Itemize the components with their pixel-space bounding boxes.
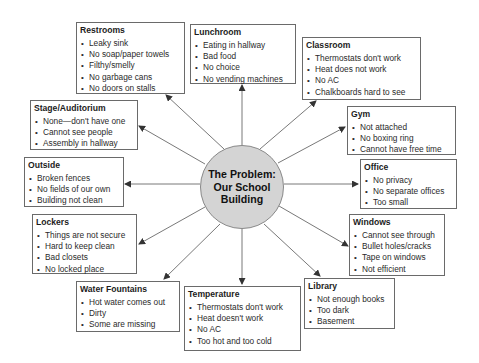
list-item: Basement xyxy=(308,316,391,327)
list-item: None—don't have one xyxy=(34,116,134,127)
arrow-stage-auditorium xyxy=(139,126,205,164)
category-title: Temperature xyxy=(188,289,297,300)
list-item: Cannot see through xyxy=(353,230,441,241)
list-item: Hard to keep clean xyxy=(36,241,133,252)
list-item: No choice xyxy=(194,62,292,73)
list-item: Not attached xyxy=(351,122,452,133)
list-item: No locked place xyxy=(36,264,133,275)
list-item: Some are missing xyxy=(80,319,176,330)
list-item: No soap/paper towels xyxy=(80,49,181,60)
list-item: Bad food xyxy=(194,51,292,62)
list-item: Cannot have free time xyxy=(351,144,452,155)
category-title: Windows xyxy=(353,217,441,228)
category-box-office: Office No privacy No separate offices To… xyxy=(360,159,457,209)
category-title: Restrooms xyxy=(80,25,181,36)
category-title: Gym xyxy=(351,109,452,120)
arrow-lockers xyxy=(139,207,205,244)
list-item: Too hot and too cold xyxy=(188,336,297,347)
list-item: No doors on stalls xyxy=(80,83,181,94)
category-title: Library xyxy=(308,281,391,292)
list-item: Broken fences xyxy=(28,173,120,184)
list-item: Bullet holes/cracks xyxy=(353,241,441,252)
list-item: No fields of our own xyxy=(28,184,120,195)
category-box-classroom: Classroom Thermostats don't work Heat do… xyxy=(302,37,421,100)
arrow-restrooms xyxy=(166,95,224,149)
category-box-temperature: Temperature Thermostats don't work Heat … xyxy=(184,286,301,351)
list-item: Tape on windows xyxy=(353,252,441,263)
category-box-water-fountains: Water Fountains Hot water comes out Dirt… xyxy=(76,281,180,332)
list-item: No privacy xyxy=(364,175,453,186)
arrow-classroom xyxy=(260,101,316,149)
category-title: Outside xyxy=(28,160,120,171)
central-topic-circle: The Problem:Our SchoolBuilding xyxy=(200,145,284,229)
list-item: No garbage cans xyxy=(80,72,181,83)
list-item: Assembly in hallway xyxy=(34,138,134,149)
arrow-windows xyxy=(279,206,348,246)
list-item: Too dark xyxy=(308,305,391,316)
list-item: Thermostats don't work xyxy=(188,302,297,313)
arrow-library xyxy=(264,224,320,276)
list-item: No vending machines xyxy=(194,74,292,85)
list-item: Dirty xyxy=(80,308,176,319)
list-item: No separate offices xyxy=(364,186,453,197)
list-item: Building not clean xyxy=(28,195,120,206)
category-box-windows: Windows Cannot see through Bullet holes/… xyxy=(349,214,445,276)
category-box-outside: Outside Broken fences No fields of our o… xyxy=(24,157,124,207)
list-item: Heat doesn't work xyxy=(188,313,297,324)
category-title: Stage/Auditorium xyxy=(34,103,134,114)
category-box-lunchroom: Lunchroom Eating in hallway Bad food No … xyxy=(190,24,296,84)
list-item: Eating in hallway xyxy=(194,40,292,51)
category-title: Lunchroom xyxy=(194,27,292,38)
category-box-restrooms: Restrooms Leaky sink No soap/paper towel… xyxy=(76,22,185,94)
list-item: Leaky sink xyxy=(80,38,181,49)
arrow-gym xyxy=(278,127,345,163)
category-box-stage-auditorium: Stage/Auditorium None—don't have one Can… xyxy=(30,100,138,150)
list-item: No AC xyxy=(188,324,297,335)
category-box-lockers: Lockers Things are not secure Hard to ke… xyxy=(32,214,137,274)
category-title: Office xyxy=(364,162,453,173)
list-item: Heat does not work xyxy=(306,64,417,75)
category-box-library: Library Not enough books Too dark Baseme… xyxy=(304,278,395,329)
list-item: Cannot see people xyxy=(34,127,134,138)
category-title: Lockers xyxy=(36,217,133,228)
list-item: Chalkboards hard to see xyxy=(306,87,417,98)
list-item: Bad closets xyxy=(36,252,133,263)
list-item: Hot water comes out xyxy=(80,297,176,308)
list-item: Filthy/smelly xyxy=(80,60,181,71)
list-item: No AC xyxy=(306,75,417,86)
list-item: Not efficient xyxy=(353,264,441,275)
category-title: Classroom xyxy=(306,40,417,51)
list-item: Thermostats don't work xyxy=(306,53,417,64)
arrow-water-fountains xyxy=(164,224,220,279)
category-title: Water Fountains xyxy=(80,284,176,295)
category-box-gym: Gym Not attached No boxing ring Cannot h… xyxy=(347,106,456,155)
list-item: No boxing ring xyxy=(351,133,452,144)
list-item: Not enough books xyxy=(308,294,391,305)
list-item: Too small xyxy=(364,197,453,208)
central-topic-label: The Problem:Our SchoolBuilding xyxy=(208,168,276,206)
list-item: Things are not secure xyxy=(36,230,133,241)
